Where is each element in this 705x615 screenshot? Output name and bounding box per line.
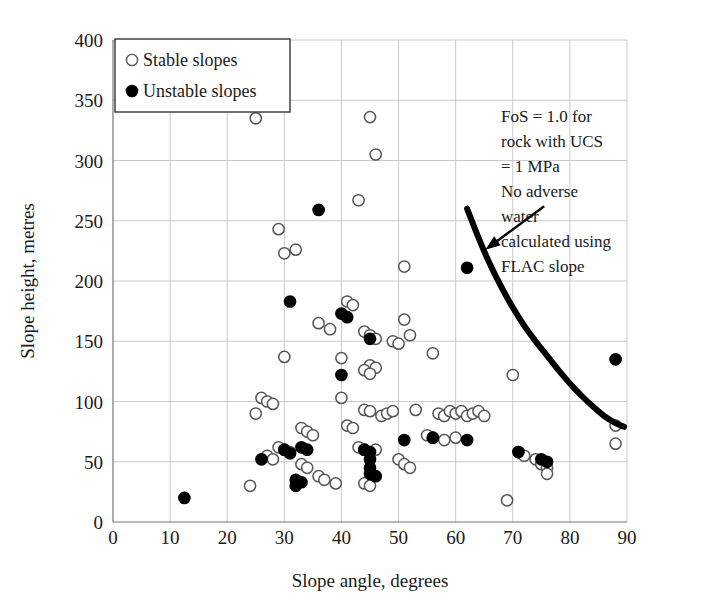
annotation-line: water: [501, 207, 539, 226]
annotation-line: = 1 MPa: [501, 157, 560, 176]
data-point-stable: [267, 454, 278, 465]
data-point-stable: [347, 422, 358, 433]
x-tick-label: 50: [389, 527, 408, 548]
data-point-stable: [364, 406, 375, 417]
data-point-unstable: [284, 448, 295, 459]
y-tick-label: 200: [75, 271, 104, 292]
x-tick-label: 20: [218, 527, 237, 548]
data-point-stable: [393, 338, 404, 349]
y-tick-label: 350: [75, 90, 104, 111]
x-tick-label: 40: [332, 527, 351, 548]
data-point-unstable: [610, 354, 621, 365]
data-point-unstable: [461, 262, 472, 273]
annotation-line: No adverse: [501, 182, 578, 201]
annotation-line: FLAC slope: [501, 257, 585, 276]
x-tick-label: 0: [108, 527, 118, 548]
data-point-stable: [450, 432, 461, 443]
data-point-unstable: [336, 369, 347, 380]
data-point-unstable: [461, 434, 472, 445]
scatter-chart-figure: 0102030405060708090 05010015020025030035…: [0, 0, 705, 615]
y-tick-label: 250: [75, 211, 104, 232]
data-point-stable: [250, 113, 261, 124]
data-point-stable: [330, 478, 341, 489]
data-point-stable: [501, 495, 512, 506]
data-point-stable: [336, 392, 347, 403]
data-point-stable: [347, 300, 358, 311]
data-point-stable: [302, 462, 313, 473]
data-point-unstable: [427, 432, 438, 443]
data-point-unstable: [313, 204, 324, 215]
x-tick-label: 90: [618, 527, 637, 548]
data-point-unstable: [541, 456, 552, 467]
data-point-stable: [279, 248, 290, 259]
data-point-stable: [404, 330, 415, 341]
data-point-stable: [439, 434, 450, 445]
data-point-stable: [399, 314, 410, 325]
legend-label-stable: Stable slopes: [143, 50, 238, 70]
data-point-stable: [353, 195, 364, 206]
data-point-stable: [250, 408, 261, 419]
data-point-stable: [404, 462, 415, 473]
data-point-unstable: [399, 434, 410, 445]
y-tick-label: 150: [75, 331, 104, 352]
data-point-stable: [427, 348, 438, 359]
data-point-stable: [267, 398, 278, 409]
y-tick-label: 0: [94, 512, 104, 533]
x-axis-title: Slope angle, degrees: [292, 570, 449, 591]
data-point-stable: [507, 369, 518, 380]
data-point-stable: [324, 324, 335, 335]
data-point-stable: [399, 261, 410, 272]
legend-marker-unstable-icon: [126, 85, 137, 96]
y-tick-label: 400: [75, 30, 104, 51]
data-point-stable: [610, 438, 621, 449]
data-point-stable: [364, 112, 375, 123]
data-point-stable: [479, 410, 490, 421]
data-point-stable: [244, 480, 255, 491]
x-tick-label: 80: [560, 527, 579, 548]
data-point-stable: [541, 468, 552, 479]
data-point-stable: [307, 430, 318, 441]
x-tick-label: 30: [275, 527, 294, 548]
data-point-stable: [313, 318, 324, 329]
data-point-stable: [273, 224, 284, 235]
chart-canvas: 0102030405060708090 05010015020025030035…: [0, 0, 705, 615]
annotation-line: rock with UCS: [501, 132, 603, 151]
data-point-stable: [319, 474, 330, 485]
data-point-unstable: [370, 471, 381, 482]
data-point-unstable: [296, 477, 307, 488]
y-axis-title: Slope height, metres: [17, 203, 38, 359]
x-tick-label: 60: [446, 527, 465, 548]
data-point-unstable: [284, 296, 295, 307]
annotation-line: calculated using: [501, 232, 611, 251]
y-tick-label: 300: [75, 151, 104, 172]
data-point-unstable: [513, 447, 524, 458]
data-point-stable: [410, 404, 421, 415]
legend-label-unstable: Unstable slopes: [143, 81, 256, 101]
y-tick-label: 100: [75, 392, 104, 413]
data-point-unstable: [256, 454, 267, 465]
x-tick-label: 70: [503, 527, 522, 548]
data-point-stable: [279, 351, 290, 362]
data-point-stable: [364, 368, 375, 379]
data-point-stable: [370, 149, 381, 160]
data-point-stable: [336, 353, 347, 364]
data-point-unstable: [302, 444, 313, 455]
data-point-unstable: [364, 333, 375, 344]
annotation-line: FoS = 1.0 for: [501, 107, 592, 126]
y-tick-label: 50: [84, 452, 103, 473]
x-tick-label: 10: [161, 527, 180, 548]
data-point-stable: [290, 244, 301, 255]
data-point-unstable: [179, 492, 190, 503]
data-point-stable: [387, 406, 398, 417]
legend-marker-stable-icon: [126, 54, 137, 65]
chart-legend: Stable slopes Unstable slopes: [115, 39, 290, 112]
data-point-unstable: [342, 312, 353, 323]
